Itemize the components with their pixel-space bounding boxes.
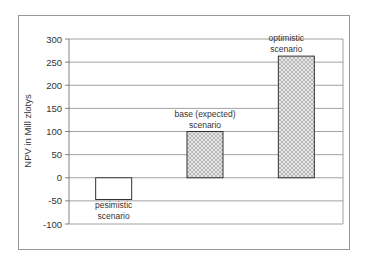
- bar-label: optimistic: [269, 33, 305, 43]
- y-tick-label: 50: [51, 149, 62, 160]
- bar: [187, 132, 223, 178]
- bar-label: scenario: [98, 211, 130, 221]
- bar: [96, 178, 132, 200]
- y-tick-label: 250: [46, 57, 62, 68]
- y-tick-label: 100: [46, 126, 62, 137]
- bar-label: base (expected): [175, 109, 236, 119]
- y-tick-label: 150: [46, 103, 62, 114]
- bar-label: scenario: [189, 120, 221, 130]
- y-tick-label: 0: [57, 172, 62, 183]
- bar: [278, 56, 314, 178]
- y-tick-label: -50: [48, 195, 62, 206]
- bar-label: pesimistic: [95, 200, 133, 210]
- y-tick-label: 200: [46, 80, 62, 91]
- npv-bar-chart: 300250200150100500-50-100 pesimisticscen…: [0, 0, 368, 270]
- y-tick-label: -100: [43, 219, 62, 230]
- bar-label: scenario: [270, 44, 302, 54]
- y-axis-label: NPV in Mill zlotys: [22, 94, 33, 168]
- y-tick-label: 300: [46, 34, 62, 45]
